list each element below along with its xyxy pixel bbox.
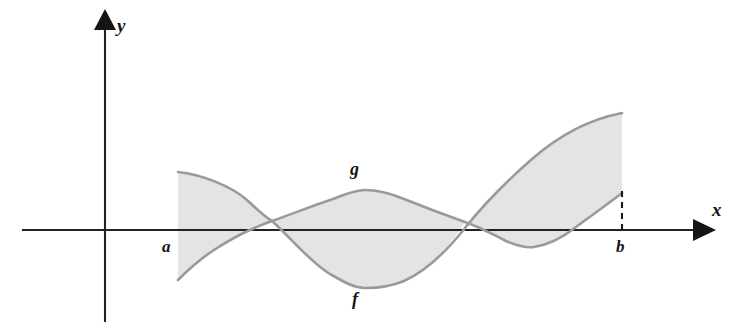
lower-bound-label-a: a	[162, 238, 171, 255]
curve-label-g: g	[350, 160, 359, 178]
diagram-canvas	[0, 0, 752, 336]
area-between-curves-figure: y x a b g f	[0, 0, 752, 336]
shaded-lobe-right	[465, 113, 622, 247]
shaded-region	[178, 113, 622, 288]
y-axis-arrowhead	[94, 9, 116, 30]
y-axis-label: y	[117, 16, 125, 35]
x-axis-arrowhead	[693, 219, 716, 241]
x-axis-label: x	[712, 200, 722, 219]
curve-label-f: f	[352, 290, 358, 308]
upper-bound-label-b: b	[616, 238, 625, 255]
shaded-lobe-middle	[272, 190, 465, 288]
